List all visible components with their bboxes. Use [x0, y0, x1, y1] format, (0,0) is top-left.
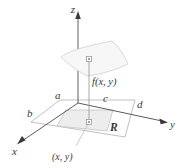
bound-c-label: c: [103, 92, 108, 104]
bound-d-label: d: [137, 98, 143, 110]
base-point-dot: [88, 121, 90, 123]
base-point-label: (x, y): [52, 151, 73, 163]
z-axis-arrowhead: [75, 11, 81, 19]
y-axis-label: y: [169, 118, 175, 130]
function-value-label: f(x, y): [92, 76, 117, 88]
surface-patch-shape: [61, 41, 128, 76]
y-axis-arrowhead: [159, 119, 168, 125]
bound-a-label: a: [55, 89, 61, 101]
x-axis-arrowhead: [17, 136, 26, 145]
region-R: [57, 110, 113, 131]
region-R-shape: [57, 110, 113, 131]
bound-b-label: b: [27, 107, 33, 119]
region-label: R: [109, 121, 118, 133]
surface-point-dot: [88, 58, 90, 60]
x-axis-label: x: [11, 145, 17, 157]
z-axis-label: z: [70, 3, 76, 15]
surface-patch: [61, 41, 128, 76]
figure-container: z y x a b c d f(x, y) R (x, y): [0, 0, 185, 168]
surface-over-region-diagram: z y x a b c d f(x, y) R (x, y): [0, 0, 185, 168]
